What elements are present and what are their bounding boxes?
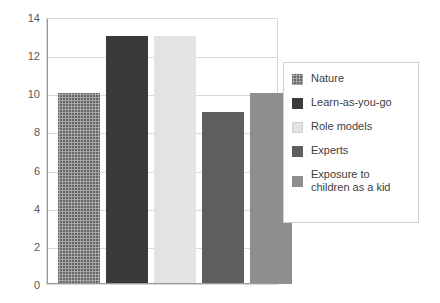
x-axis-line xyxy=(47,283,277,284)
y-tick-label: 10 xyxy=(0,89,40,100)
y-tick-label: 0 xyxy=(0,280,40,291)
legend-item-experts[interactable]: Experts xyxy=(292,144,410,157)
legend-item-exposure-to-children[interactable]: Exposure to children as a kid xyxy=(292,168,410,194)
legend-item-label: Learn-as-you-go xyxy=(311,96,392,109)
y-axis: 14 12 10 8 6 4 2 0 xyxy=(0,18,40,285)
y-axis-line xyxy=(47,19,48,284)
bar-nature xyxy=(58,93,100,284)
bar-learn-as-you-go xyxy=(106,36,148,284)
y-tick-label: 8 xyxy=(0,127,40,138)
bar-chart: 14 12 10 8 6 4 2 0 Nature xyxy=(0,0,440,303)
legend-item-label: Role models xyxy=(311,120,372,133)
legend-item-learn-as-you-go[interactable]: Learn-as-you-go xyxy=(292,96,410,109)
y-tick-label: 4 xyxy=(0,203,40,214)
y-tick-label: 12 xyxy=(0,51,40,62)
legend-item-role-models[interactable]: Role models xyxy=(292,120,410,133)
plot-area xyxy=(46,18,278,285)
bar-series xyxy=(47,19,277,284)
bar-role-models xyxy=(154,36,196,284)
legend-item-nature[interactable]: Nature xyxy=(292,72,410,85)
y-tick-label: 2 xyxy=(0,241,40,252)
legend-item-label: Experts xyxy=(311,144,348,157)
legend-swatch-icon xyxy=(292,98,303,109)
legend-swatch-icon xyxy=(292,122,303,133)
bar-experts xyxy=(202,112,244,284)
y-tick-label: 14 xyxy=(0,13,40,24)
y-tick-label: 6 xyxy=(0,165,40,176)
legend-swatch-icon xyxy=(292,74,303,85)
legend-item-label: Nature xyxy=(311,72,344,85)
legend: Nature Learn-as-you-go Role models Exper… xyxy=(283,62,419,223)
legend-swatch-icon xyxy=(292,146,303,157)
legend-swatch-icon xyxy=(292,176,303,187)
legend-item-label: Exposure to children as a kid xyxy=(311,168,410,194)
